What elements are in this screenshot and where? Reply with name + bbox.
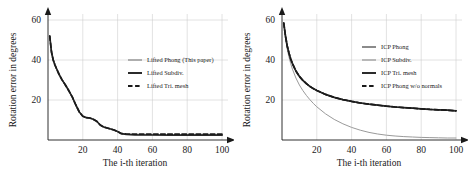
legend-label: Lifted Phong (This paper) bbox=[147, 56, 214, 64]
chart-panel-right: 20406080100204060The i-th iterationRotat… bbox=[234, 0, 468, 179]
axes bbox=[45, 7, 234, 143]
x-tick-label: 100 bbox=[215, 145, 230, 155]
y-axis-arrow-icon bbox=[45, 7, 51, 15]
y-tick-label: 60 bbox=[32, 15, 42, 25]
left-chart-svg: 20406080100204060The i-th iterationRotat… bbox=[0, 0, 234, 179]
x-tick-label: 60 bbox=[382, 145, 392, 155]
x-tick-label: 80 bbox=[182, 145, 192, 155]
axes bbox=[279, 7, 468, 143]
right-chart-svg: 20406080100204060The i-th iterationRotat… bbox=[234, 0, 468, 179]
legend-label: Lifted Subdiv. bbox=[147, 69, 184, 76]
data-curve bbox=[284, 23, 456, 138]
x-tick-label: 80 bbox=[416, 145, 426, 155]
y-tick-label: 60 bbox=[266, 15, 276, 25]
x-tick-label: 40 bbox=[347, 145, 357, 155]
legend-label: ICP Tri. mesh bbox=[381, 69, 417, 76]
y-tick-label: 40 bbox=[266, 55, 276, 65]
y-axis-title: Rotation error in degrees bbox=[242, 32, 252, 127]
y-tick-label: 20 bbox=[266, 95, 276, 105]
y-tick-label: 40 bbox=[32, 55, 42, 65]
data-curve bbox=[284, 23, 456, 111]
x-tick-label: 20 bbox=[78, 145, 88, 155]
x-tick-label: 20 bbox=[312, 145, 322, 155]
legend-label: ICP Phong w/o normals bbox=[381, 82, 443, 89]
x-axis-arrow-icon bbox=[461, 137, 468, 143]
curves bbox=[284, 23, 456, 138]
legend-label: Lifted Tri. mesh bbox=[147, 82, 189, 89]
x-axis-title: The i-th iteration bbox=[337, 158, 402, 168]
figure-container: 20406080100204060The i-th iterationRotat… bbox=[0, 0, 468, 179]
gridlines bbox=[282, 14, 462, 140]
gridlines bbox=[48, 14, 228, 140]
y-axis-arrow-icon bbox=[279, 7, 285, 15]
legend-label: ICP Subdiv. bbox=[381, 56, 412, 63]
legend-label: ICP Phong bbox=[381, 43, 409, 50]
chart-legend: Lifted Phong (This paper)Lifted Subdiv.L… bbox=[128, 56, 214, 89]
x-tick-label: 40 bbox=[113, 145, 123, 155]
x-axis-title: The i-th iteration bbox=[103, 158, 168, 168]
x-tick-label: 100 bbox=[449, 145, 464, 155]
data-curve bbox=[284, 23, 456, 111]
x-axis-arrow-icon bbox=[227, 137, 234, 143]
data-curve bbox=[284, 23, 456, 111]
y-tick-label: 20 bbox=[32, 95, 42, 105]
y-axis-title: Rotation error in degrees bbox=[8, 32, 18, 127]
x-tick-label: 60 bbox=[148, 145, 158, 155]
chart-legend: ICP PhongICP Subdiv.ICP Tri. meshICP Pho… bbox=[362, 43, 443, 89]
chart-panel-left: 20406080100204060The i-th iterationRotat… bbox=[0, 0, 234, 179]
